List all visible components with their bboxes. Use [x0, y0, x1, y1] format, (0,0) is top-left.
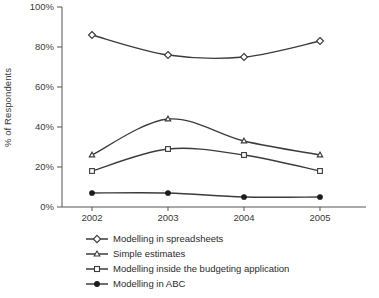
data-point-marker — [241, 138, 246, 143]
x-axis-ticks: 2002200320042005 — [81, 207, 330, 223]
y-tick-label: 0% — [40, 201, 54, 212]
x-tick-label: 2005 — [309, 212, 330, 223]
data-point-marker — [317, 152, 322, 157]
y-tick-label: 100% — [30, 1, 55, 12]
y-axis-ticks: 0%20%40%60%80%100% — [30, 1, 62, 212]
y-tick-label: 20% — [35, 161, 55, 172]
data-point-marker — [166, 147, 171, 152]
y-tick-label: 40% — [35, 121, 55, 132]
data-point-marker — [165, 116, 170, 121]
legend-item-label: Modelling in spreadsheets — [113, 232, 223, 246]
legend-item-label: Modelling in ABC — [113, 277, 185, 291]
x-tick-label: 2004 — [233, 212, 254, 223]
x-tick-label: 2003 — [157, 212, 178, 223]
legend-item-label: Modelling inside the budgeting applicati… — [113, 262, 289, 276]
data-point-marker — [164, 51, 171, 58]
series-layer — [88, 31, 323, 199]
series-3 — [90, 147, 323, 174]
data-point-marker — [316, 37, 323, 44]
legend-marker-square-open-icon — [86, 262, 108, 276]
data-point-marker — [88, 31, 95, 38]
series-4 — [90, 191, 323, 200]
chart-legend: Modelling in spreadsheetsSimple estimate… — [86, 231, 366, 291]
legend-item-label: Simple estimates — [113, 247, 185, 261]
legend-item[interactable]: Modelling in ABC — [86, 276, 366, 291]
legend-marker-diamond-open-icon — [86, 232, 108, 246]
data-point-marker — [318, 195, 323, 200]
legend-swatch — [86, 277, 108, 291]
legend-swatch — [86, 247, 108, 261]
legend-item[interactable]: Modelling in spreadsheets — [86, 231, 366, 246]
data-point-marker — [94, 251, 100, 256]
legend-swatch — [86, 262, 108, 276]
data-point-marker — [242, 195, 247, 200]
data-point-marker — [89, 152, 94, 157]
series-2 — [89, 116, 322, 157]
y-tick-label: 60% — [35, 81, 55, 92]
series-line — [92, 35, 320, 58]
legend-marker-circle-filled-icon — [86, 277, 108, 291]
x-tick-label: 2002 — [81, 212, 102, 223]
legend-marker-triangle-open-icon — [86, 247, 108, 261]
data-point-marker — [90, 191, 95, 196]
data-point-marker — [95, 281, 100, 286]
legend-item[interactable]: Simple estimates — [86, 246, 366, 261]
plot-area: 0%20%40%60%80%100% 2002200320042005 — [0, 0, 379, 232]
data-point-marker — [240, 53, 247, 60]
series-line — [92, 148, 320, 171]
series-line — [92, 193, 320, 198]
data-point-marker — [318, 169, 323, 174]
chart-container: % of Respondents 0%20%40%60%80%100% 2002… — [0, 0, 379, 298]
legend-item[interactable]: Modelling inside the budgeting applicati… — [86, 261, 366, 276]
data-point-marker — [90, 169, 95, 174]
series-1 — [88, 31, 323, 60]
data-point-marker — [242, 153, 247, 158]
data-point-marker — [93, 235, 100, 242]
data-point-marker — [95, 266, 100, 271]
y-tick-label: 80% — [35, 41, 55, 52]
legend-swatch — [86, 232, 108, 246]
data-point-marker — [166, 191, 171, 196]
